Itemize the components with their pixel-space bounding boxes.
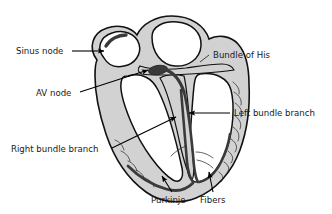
- label-purkinje: Purkinje: [151, 195, 186, 205]
- label-right-bundle-branch: Right bundle branch: [11, 144, 98, 154]
- label-left-bundle-branch: Left bundle branch: [234, 108, 315, 118]
- label-sinus-node: Sinus node: [16, 46, 63, 56]
- label-av-node: AV node: [36, 88, 71, 98]
- cardiac-conduction-diagram: Sinus node AV node Bundle of His Left bu…: [0, 0, 332, 214]
- heart-illustration: [92, 16, 249, 202]
- label-fibers: Fibers: [200, 195, 226, 205]
- label-bundle-of-his: Bundle of His: [213, 50, 271, 60]
